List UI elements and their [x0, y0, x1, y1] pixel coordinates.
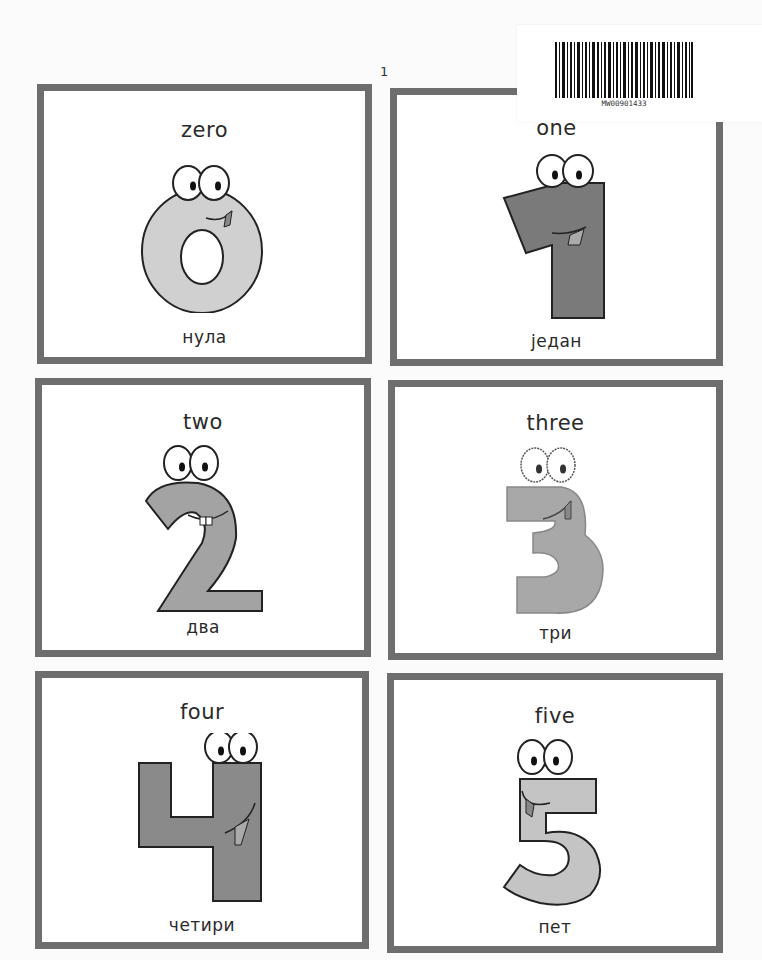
cartoon-two-icon: [138, 443, 268, 613]
cartoon-five-icon: [500, 737, 610, 907]
flashcard-four: four четири: [35, 671, 369, 949]
serbian-word: два: [42, 617, 364, 637]
cartoon-three-icon: [501, 445, 611, 615]
english-word: two: [42, 410, 364, 434]
english-word: four: [42, 700, 362, 724]
serbian-word: три: [395, 623, 716, 643]
barcode-number: MW00901433: [555, 99, 693, 108]
barcode-sticker: MW00901433: [517, 25, 762, 122]
flashcard-one: one један: [390, 88, 723, 366]
flashcard-zero: zero нула: [37, 84, 372, 364]
english-word: zero: [44, 118, 365, 142]
flashcard-two: two два: [35, 378, 371, 657]
cartoon-one-icon: [500, 153, 610, 323]
page-number: 1: [380, 64, 388, 79]
flashcard-five: five пет: [387, 673, 723, 953]
flashcard-three: three три: [388, 380, 723, 660]
cartoon-four-icon: [137, 733, 267, 903]
barcode-bars: [555, 42, 693, 98]
serbian-word: четири: [42, 915, 362, 935]
serbian-word: један: [397, 331, 716, 351]
serbian-word: пет: [394, 917, 716, 937]
cartoon-zero-icon: [140, 153, 270, 313]
english-word: three: [395, 411, 716, 435]
serbian-word: нула: [44, 327, 365, 347]
english-word: five: [394, 704, 716, 728]
